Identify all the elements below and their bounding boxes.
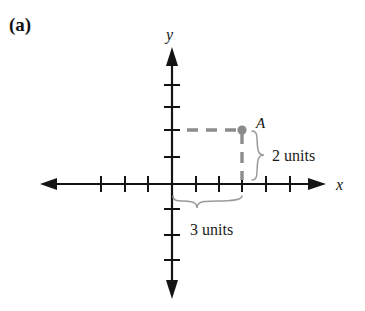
y-axis-down-arrowhead	[166, 280, 178, 299]
figure-panel: (a)	[0, 0, 365, 311]
point-label-a: A	[255, 115, 266, 131]
vertical-brace-path	[252, 131, 264, 180]
y-axis-up-arrowhead	[166, 47, 178, 66]
label-3-units: 3 units	[190, 221, 233, 238]
horizontal-brace	[173, 196, 242, 208]
guide-lines	[187, 130, 242, 180]
vertical-brace	[252, 131, 264, 180]
point-marker-a[interactable]	[237, 125, 246, 134]
x-axis-right-arrowhead	[308, 178, 326, 190]
x-axis-label: x	[335, 176, 343, 193]
x-axis-left-arrowhead	[40, 178, 57, 190]
coordinate-plane-figure: A 2 units 3 units x y	[0, 0, 365, 311]
horizontal-brace-path	[173, 196, 242, 208]
y-axis-label: y	[164, 26, 174, 44]
x-axis	[40, 178, 326, 190]
label-2-units: 2 units	[272, 147, 315, 164]
